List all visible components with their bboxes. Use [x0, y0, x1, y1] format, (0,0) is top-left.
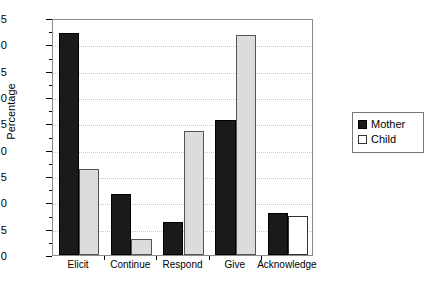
- y-tick-label: 10: [0, 198, 7, 209]
- bar-child-acknowledge: [288, 216, 308, 256]
- y-tick-label: 5: [0, 225, 7, 236]
- legend-entry-child: Child: [358, 132, 418, 147]
- bar-mother-acknowledge: [268, 213, 288, 255]
- bar-child-give: [236, 35, 256, 255]
- bar-child-respond: [184, 131, 204, 255]
- y-tick-label: 20: [0, 146, 7, 157]
- bar-child-continue: [131, 239, 151, 255]
- x-tick-mark: [156, 256, 157, 260]
- y-tick-label: 40: [0, 40, 7, 51]
- y-tick-mark: [46, 256, 52, 257]
- y-tick-label: 15: [0, 172, 7, 183]
- y-tick-label: 25: [0, 119, 7, 130]
- bar-chart-figure: Percentage 051015202530354045 ElicitCont…: [0, 0, 437, 287]
- legend: Mother Child: [352, 112, 424, 153]
- filled-black-swatch-icon: [358, 120, 367, 129]
- y-axis: Percentage 051015202530354045: [0, 0, 52, 287]
- legend-label-mother: Mother: [371, 119, 405, 130]
- x-tick-mark: [104, 256, 105, 260]
- x-tick-mark: [209, 256, 210, 260]
- legend-entry-mother: Mother: [358, 117, 418, 132]
- x-tick-label-acknowledge: Acknowledge: [243, 259, 332, 270]
- legend-label-child: Child: [371, 134, 396, 145]
- bar-mother-elicit: [59, 33, 79, 255]
- bar-mother-respond: [163, 222, 183, 255]
- y-tick-label: 0: [0, 251, 7, 262]
- bar-child-elicit: [79, 169, 99, 255]
- y-axis-title: Percentage: [6, 52, 17, 172]
- y-tick-label: 35: [0, 67, 7, 78]
- bar-mother-give: [215, 120, 235, 255]
- x-tick-mark: [261, 256, 262, 260]
- x-axis: ElicitContinueRespondGiveAcknowledge: [52, 259, 313, 279]
- y-tick-label: 45: [0, 14, 7, 25]
- bar-mother-continue: [111, 194, 131, 255]
- bars-layer: [53, 20, 312, 255]
- plot-area: [52, 19, 313, 256]
- empty-white-swatch-icon: [358, 135, 367, 144]
- y-tick-label: 30: [0, 93, 7, 104]
